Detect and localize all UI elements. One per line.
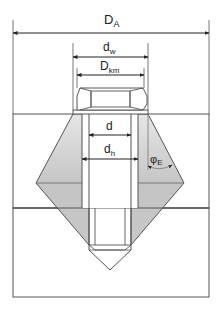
label-Dkm: Dkm [100,59,120,75]
washer [73,110,148,114]
label-DA: DA [104,12,119,29]
pressure-cone-diagram: DA dw Dkm d dh φE [0,0,221,311]
label-dw: dw [103,40,116,56]
label-d: d [106,119,113,133]
